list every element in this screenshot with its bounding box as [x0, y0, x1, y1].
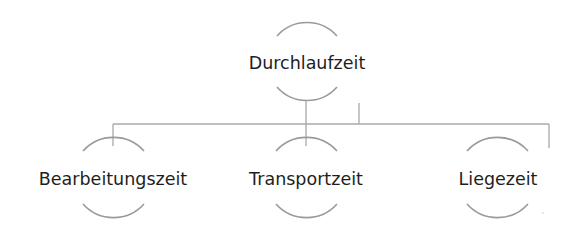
node-label-root: Durchlaufzeit: [249, 53, 366, 73]
node-top-arc: [277, 22, 337, 36]
node-bottom-arc: [276, 204, 337, 218]
node-bottom-arc: [83, 204, 144, 218]
node-bottom-arc: [467, 204, 528, 218]
node-label-bearbeitungszeit: Bearbeitungszeit: [39, 169, 188, 189]
node-child-2: Transportzeit: [248, 137, 363, 217]
node-child-1: Bearbeitungszeit: [39, 137, 188, 217]
speck-dot: [542, 212, 544, 214]
node-label-liegezeit: Liegezeit: [459, 169, 538, 189]
connectors: [113, 101, 549, 148]
node-label-transportzeit: Transportzeit: [248, 169, 363, 189]
hierarchy-diagram: Durchlaufzeit Bearbeitungszeit Transport…: [0, 0, 571, 234]
node-child-3: Liegezeit: [459, 137, 538, 217]
node-top-arc: [467, 137, 528, 151]
node-root: Durchlaufzeit: [249, 22, 366, 100]
node-bottom-arc: [277, 87, 337, 101]
